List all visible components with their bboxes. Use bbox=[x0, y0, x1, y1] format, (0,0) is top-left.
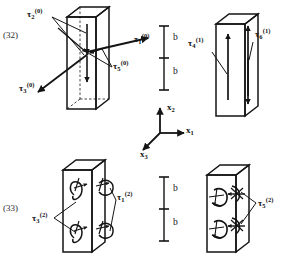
stress-label-tau-4-1: τ4(1) bbox=[188, 37, 203, 49]
dimension-label-b-bottom-1: b bbox=[173, 184, 178, 194]
stress-label-tau-5-2: τ5(2) bbox=[258, 197, 273, 209]
tau-superscript: (2) bbox=[266, 196, 274, 203]
stress-label-tau-2-0: τ2(0) bbox=[27, 8, 42, 20]
equation-number-32: (32) bbox=[3, 30, 18, 40]
stress-label-tau-1-0: τ1(0) bbox=[134, 33, 149, 45]
tau-superscript: (2) bbox=[40, 211, 48, 218]
stress-label-tau-3-2: τ3(2) bbox=[32, 212, 47, 224]
figure-bottom-right-block bbox=[207, 165, 256, 252]
axis-label-x2: x2 bbox=[167, 103, 175, 114]
stress-label-tau-5-0: τ5(0) bbox=[113, 60, 128, 72]
dimension-label-b-bottom-2: b bbox=[173, 218, 178, 228]
axis-subscript: 2 bbox=[172, 106, 175, 113]
dimension-scale-top bbox=[159, 26, 169, 90]
axes-triad bbox=[143, 108, 184, 150]
axis-label-x3: x3 bbox=[140, 150, 148, 161]
stress-label-tau-3-0: τ3(0) bbox=[19, 82, 34, 94]
dimension-label-b-top-2: b bbox=[173, 67, 178, 77]
tau-superscript: (2) bbox=[125, 190, 133, 197]
diagram-page: (32) (33) τ2(0) τ1(0) τ5(0) τ3(0) τ4(1) … bbox=[0, 0, 291, 262]
figure-top-left-block bbox=[38, 7, 148, 109]
axis-subscript: 3 bbox=[145, 153, 148, 160]
tau-superscript: (0) bbox=[121, 59, 129, 66]
tau-superscript: (0) bbox=[35, 7, 43, 14]
axis-label-x1: x1 bbox=[186, 126, 194, 137]
stress-label-tau-6-1: τ6(1) bbox=[255, 28, 270, 40]
dimension-label-b-top-1: b bbox=[173, 33, 178, 43]
tau-superscript: (1) bbox=[263, 27, 271, 34]
dimension-scale-bottom bbox=[159, 177, 169, 241]
equation-number-33: (33) bbox=[3, 203, 18, 213]
figure-top-right-block bbox=[212, 14, 258, 116]
axis-subscript: 1 bbox=[191, 129, 194, 136]
tau-superscript: (1) bbox=[196, 36, 204, 43]
stress-label-tau-1-2: τ1(2) bbox=[117, 191, 132, 203]
figure-bottom-left-block bbox=[54, 160, 116, 252]
tau-superscript: (0) bbox=[27, 81, 35, 88]
tau-superscript: (0) bbox=[142, 32, 150, 39]
